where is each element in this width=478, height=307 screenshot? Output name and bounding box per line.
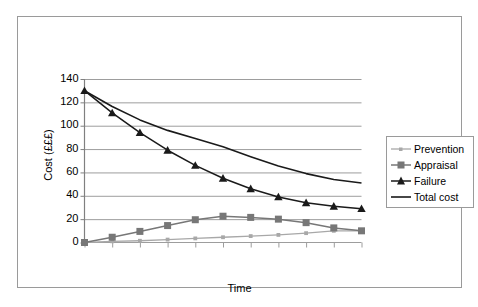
y-tick-label: 140 bbox=[45, 72, 79, 84]
chart-figure: 020406080100120140 Cost (£££) Time Preve… bbox=[0, 0, 478, 307]
data-point bbox=[193, 237, 197, 241]
data-point bbox=[358, 227, 365, 234]
data-point bbox=[191, 161, 199, 169]
legend-item-prevention: Prevention bbox=[391, 141, 470, 157]
data-point bbox=[247, 214, 254, 221]
data-point bbox=[303, 219, 310, 226]
legend-swatch-failure bbox=[391, 174, 411, 188]
chart-legend: Prevention Appraisal Fai bbox=[386, 136, 474, 208]
data-point bbox=[81, 239, 88, 246]
data-point bbox=[330, 224, 337, 231]
y-axis-title: Cost (£££) bbox=[42, 105, 54, 205]
gridlines bbox=[85, 80, 362, 220]
series-line bbox=[85, 91, 362, 183]
legend-swatch-prevention bbox=[391, 142, 411, 156]
y-tick-label: 0 bbox=[45, 235, 79, 247]
legend-label-total-cost: Total cost bbox=[414, 191, 458, 203]
legend-swatch-total-cost bbox=[391, 190, 411, 204]
legend-item-failure: Failure bbox=[391, 173, 470, 189]
legend-label-failure: Failure bbox=[414, 175, 446, 187]
legend-label-prevention: Prevention bbox=[414, 143, 464, 155]
data-point bbox=[136, 129, 144, 137]
x-axis-ticks bbox=[85, 243, 362, 248]
data-point bbox=[166, 238, 170, 242]
legend-item-appraisal: Appraisal bbox=[391, 157, 470, 173]
data-point bbox=[138, 239, 142, 243]
series-total-cost bbox=[85, 91, 362, 183]
data-point bbox=[192, 216, 199, 223]
data-point bbox=[219, 174, 227, 182]
data-point bbox=[136, 228, 143, 235]
legend-label-appraisal: Appraisal bbox=[414, 159, 458, 171]
legend-item-total-cost: Total cost bbox=[391, 189, 470, 205]
legend-swatch-appraisal bbox=[391, 158, 411, 172]
data-point bbox=[275, 216, 282, 223]
data-series-layer bbox=[80, 86, 365, 246]
x-axis-title: Time bbox=[101, 282, 378, 294]
data-point bbox=[221, 235, 225, 239]
data-point bbox=[220, 213, 227, 220]
data-point bbox=[277, 233, 281, 237]
data-point bbox=[304, 231, 308, 235]
chart-frame: 020406080100120140 Cost (£££) Time Preve… bbox=[17, 16, 462, 288]
data-point bbox=[164, 222, 171, 229]
data-point bbox=[109, 234, 116, 241]
y-tick-label: 20 bbox=[45, 212, 79, 224]
data-point bbox=[249, 234, 253, 238]
